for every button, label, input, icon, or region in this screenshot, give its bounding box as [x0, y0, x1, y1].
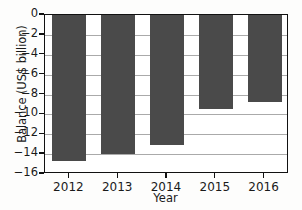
bar	[150, 15, 184, 145]
y-axis-tick-label: −10	[0, 107, 38, 119]
y-axis-tick: −8	[0, 88, 38, 100]
y-axis-tick: −10	[0, 107, 38, 119]
x-axis-title: Year	[43, 191, 288, 205]
y-axis-tick-label: 0	[0, 8, 38, 20]
y-axis-tick: −12	[0, 127, 38, 139]
y-axis-tick: −16	[0, 167, 38, 179]
bar	[101, 15, 135, 154]
x-axis-tick-mark	[214, 173, 215, 178]
bar-chart-figure: Balance (US$ billion) 0−2−4−6−8−10−12−14…	[0, 0, 302, 210]
x-axis-tick-mark	[165, 173, 166, 178]
y-axis-tick-label: −2	[0, 28, 38, 40]
bar	[248, 15, 282, 102]
bar	[199, 15, 233, 109]
x-axis-tick-mark	[263, 173, 264, 178]
y-axis-tick: −6	[0, 68, 38, 80]
y-axis-tick: −2	[0, 28, 38, 40]
bar	[52, 15, 86, 161]
y-axis-tick-label: −14	[0, 147, 38, 159]
plot-area	[44, 14, 288, 173]
x-axis-tick-mark	[117, 173, 118, 178]
y-axis-tick: −14	[0, 147, 38, 159]
y-axis-tick: −4	[0, 48, 38, 60]
y-axis-tick: 0	[0, 8, 38, 20]
y-axis-tick-label: −8	[0, 88, 38, 100]
y-axis-tick-label: −16	[0, 167, 38, 179]
y-axis-tick-label: −4	[0, 48, 38, 60]
y-axis-tick-label: −6	[0, 68, 38, 80]
x-axis-tick-mark	[68, 173, 69, 178]
y-axis-tick-label: −12	[0, 127, 38, 139]
